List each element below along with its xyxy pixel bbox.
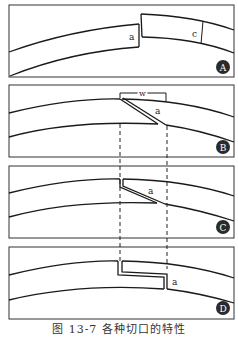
panel-b xyxy=(9,85,234,157)
panel-a-right-inner-curve xyxy=(142,37,234,53)
panel-a-right-cut-edge xyxy=(141,14,142,37)
panel-a xyxy=(9,5,234,77)
panel-c-inner-curve-left xyxy=(9,203,157,217)
panel-d xyxy=(9,247,234,319)
panel-b-outer-curve-left xyxy=(9,99,120,113)
panel-b-label-a: a xyxy=(155,106,161,116)
panel-c-label-a: a xyxy=(148,186,154,196)
panel-b-badge: B xyxy=(216,140,230,154)
panel-b-label-w: w xyxy=(139,89,146,98)
panel-d-inner-curve-right xyxy=(167,289,234,303)
panel-d-incision-line-1 xyxy=(118,261,164,289)
panel-c-outer-curve-left xyxy=(9,179,120,193)
panel-a-badge-letter: A xyxy=(219,63,227,73)
panel-c-badge-letter: C xyxy=(220,223,227,233)
panel-b-badge-letter: B xyxy=(220,143,227,153)
panel-a-left-inner-curve xyxy=(10,47,139,76)
panel-b-incision-line-1 xyxy=(120,99,158,124)
panel-d-inner-curve-left xyxy=(9,287,164,300)
panel-d-badge: D xyxy=(216,301,230,315)
panel-b-inner-curve-left xyxy=(9,123,158,137)
panel-a-label-a: a xyxy=(129,32,135,42)
panel-a-badge: A xyxy=(216,60,230,74)
panel-d-label-a: a xyxy=(172,277,178,287)
panel-c-badge: C xyxy=(216,220,230,234)
panel-d-frame xyxy=(9,247,234,319)
panel-c-inner-curve-right xyxy=(165,204,234,221)
figure-caption: 图 13-7 各种切口的特性 xyxy=(0,323,238,337)
panel-b-frame xyxy=(9,85,234,157)
panel-a-label-c: c xyxy=(192,29,197,39)
panel-d-badge-letter: D xyxy=(219,304,226,314)
panel-a-right-outer-curve xyxy=(141,14,234,30)
panel-a-line-c xyxy=(201,21,203,44)
panel-b-inner-curve-right xyxy=(166,125,234,142)
panel-d-outer-curve-left xyxy=(9,261,118,275)
panel-a-left-outer-curve xyxy=(9,24,139,52)
panel-c xyxy=(9,166,234,238)
